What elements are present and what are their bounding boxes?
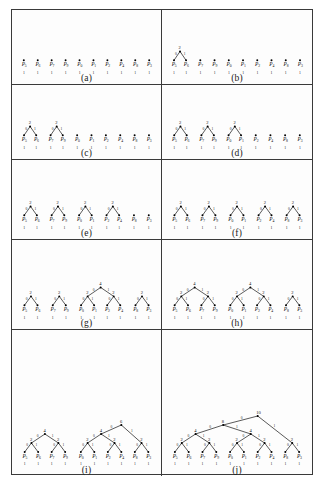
svg-text:7: 7	[53, 219, 55, 223]
svg-text:0: 0	[80, 64, 82, 68]
svg-text:0: 0	[175, 127, 177, 131]
svg-text:7: 7	[203, 219, 205, 223]
svg-text:2: 2	[109, 456, 111, 460]
svg-text:2: 2	[207, 290, 210, 295]
svg-text:0: 0	[52, 127, 54, 131]
svg-text:1: 1	[34, 127, 36, 131]
svg-text:7: 7	[202, 139, 204, 143]
svg-text:2: 2	[57, 200, 60, 205]
svg-text:1: 1	[212, 127, 214, 131]
svg-text:1: 1	[268, 297, 270, 301]
panel-e: 012P51P61012P71P91012P01P11012P21P41P81P…	[12, 160, 162, 240]
svg-text:9: 9	[66, 64, 68, 68]
svg-text:0: 0	[93, 288, 95, 292]
svg-text:0: 0	[26, 443, 28, 447]
svg-text:3: 3	[301, 139, 303, 143]
svg-text:1: 1	[213, 207, 215, 211]
svg-text:6: 6	[189, 309, 191, 313]
svg-text:2: 2	[208, 437, 211, 442]
svg-text:2: 2	[29, 120, 32, 125]
svg-text:1: 1	[92, 443, 94, 447]
panel-d: 012P51P61012P71P91012P01P11P21P41P81P31 …	[162, 85, 312, 160]
svg-text:1: 1	[108, 434, 110, 438]
svg-text:1: 1	[89, 207, 91, 211]
svg-text:6: 6	[38, 219, 40, 223]
svg-text:0: 0	[259, 443, 261, 447]
svg-text:2: 2	[58, 290, 61, 295]
svg-text:1: 1	[93, 219, 95, 223]
svg-text:0: 0	[82, 297, 84, 301]
svg-text:4: 4	[272, 456, 274, 460]
panel-f: 012P51P61012P71P91012P01P11012P21P41012P…	[162, 160, 312, 240]
svg-text:1: 1	[146, 297, 148, 301]
svg-text:0: 0	[80, 219, 82, 223]
svg-text:0: 0	[229, 139, 231, 143]
svg-text:2: 2	[86, 437, 89, 442]
svg-text:1: 1	[92, 297, 94, 301]
svg-text:7: 7	[201, 64, 203, 68]
panel-b: 012P51P61P71P91P01P11P21P41P81P31 (b)	[162, 10, 312, 85]
svg-text:1: 1	[186, 443, 188, 447]
svg-text:7: 7	[202, 309, 204, 313]
svg-text:2: 2	[291, 437, 294, 442]
panel-j: 00001101100110110110842P51P612P71P9142P0…	[162, 330, 312, 476]
svg-text:8: 8	[288, 219, 290, 223]
svg-text:2: 2	[112, 290, 115, 295]
svg-text:0: 0	[54, 297, 56, 301]
svg-text:5: 5	[175, 64, 177, 68]
svg-text:2: 2	[179, 120, 182, 125]
svg-text:2: 2	[111, 200, 114, 205]
panel-h: 00110142P51P612P71P9100110142P01P112P21P…	[162, 240, 312, 330]
svg-text:8: 8	[287, 309, 289, 313]
svg-text:4: 4	[194, 428, 197, 433]
svg-text:2: 2	[108, 309, 110, 313]
svg-text:0: 0	[230, 64, 232, 68]
svg-text:2: 2	[208, 200, 211, 205]
panel-i-diagram: 00110142P51P612P71P910001101101642P01P11…	[12, 330, 161, 476]
svg-text:1: 1	[236, 425, 238, 429]
svg-text:0: 0	[232, 207, 234, 211]
svg-text:1: 1	[185, 207, 187, 211]
svg-text:0: 0	[176, 207, 178, 211]
panel-e-caption: (e)	[12, 228, 161, 238]
svg-text:4: 4	[193, 281, 196, 286]
svg-text:5: 5	[25, 139, 27, 143]
svg-text:6: 6	[37, 139, 39, 143]
svg-text:10: 10	[256, 410, 261, 415]
panel-c: 012P51P61012P71P91P01P11P21P41P81P31 (c)	[12, 85, 162, 160]
svg-text:1: 1	[202, 288, 204, 292]
svg-text:2: 2	[30, 437, 33, 442]
svg-text:2: 2	[55, 120, 58, 125]
panel-a: P51P61P71P91P01P11P21P41P81P31 (a)	[12, 10, 162, 85]
svg-text:5: 5	[25, 219, 27, 223]
svg-text:6: 6	[38, 309, 40, 313]
svg-text:1: 1	[239, 127, 241, 131]
svg-text:7: 7	[53, 64, 55, 68]
svg-text:1: 1	[63, 297, 65, 301]
svg-text:1: 1	[107, 288, 109, 292]
svg-text:2: 2	[233, 120, 236, 125]
svg-text:0: 0	[109, 297, 111, 301]
svg-text:4: 4	[121, 309, 123, 313]
svg-text:4: 4	[99, 281, 102, 286]
svg-text:2: 2	[140, 437, 143, 442]
svg-text:0: 0	[136, 443, 138, 447]
svg-text:9: 9	[215, 139, 217, 143]
svg-text:0: 0	[25, 127, 27, 131]
svg-text:2: 2	[262, 290, 265, 295]
svg-text:4: 4	[120, 219, 122, 223]
svg-text:9: 9	[217, 456, 219, 460]
svg-text:9: 9	[65, 219, 67, 223]
svg-text:4: 4	[271, 139, 273, 143]
svg-text:2: 2	[29, 200, 32, 205]
svg-text:5: 5	[175, 139, 177, 143]
panel-i: 00110142P51P612P71P910001101101642P01P11…	[12, 330, 162, 476]
svg-text:2: 2	[86, 290, 89, 295]
svg-text:0: 0	[93, 434, 95, 438]
svg-text:5: 5	[25, 64, 27, 68]
svg-text:9: 9	[67, 309, 69, 313]
svg-text:1: 1	[118, 297, 120, 301]
svg-text:5: 5	[176, 309, 178, 313]
svg-text:2: 2	[180, 290, 183, 295]
svg-text:3: 3	[150, 139, 152, 143]
